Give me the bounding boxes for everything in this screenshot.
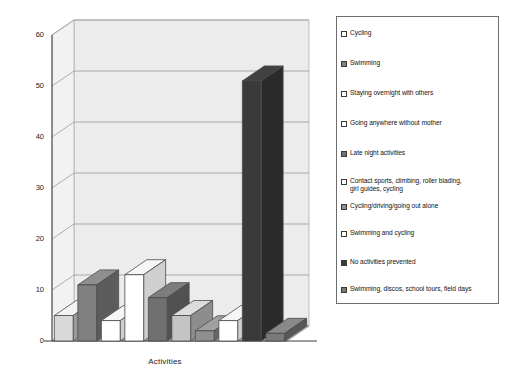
legend-item-3[interactable]: Staying overnight with others (341, 89, 498, 97)
bar-front-face (101, 321, 120, 341)
legend-item-2[interactable]: Swimming (341, 59, 498, 67)
legend-item-label: Cycling/driving/going out alone (350, 202, 438, 210)
legend-item-9[interactable]: No activities prevented (341, 258, 498, 266)
y-tick-label-50: 50 (22, 82, 44, 90)
bar-front-face (242, 81, 261, 341)
plot-area (0, 0, 340, 382)
legend-swatch-icon (341, 231, 347, 237)
bar-front-face (195, 331, 214, 341)
legend-item-label: No activities prevented (350, 258, 416, 266)
bar-side-face (261, 66, 283, 341)
legend-item-label: Swimming (350, 59, 380, 67)
bar-front-face (172, 316, 191, 342)
legend-item-10[interactable]: Swimming, discos, school tours, field da… (341, 285, 498, 293)
bar-front-face (219, 321, 238, 341)
legend-item-7[interactable]: Cycling/driving/going out alone (341, 202, 498, 210)
bar-9 (242, 66, 283, 341)
legend-item-5[interactable]: Late night activities (341, 149, 498, 157)
bar-front-face (78, 285, 97, 341)
bar-front-face (148, 298, 167, 341)
y-tick-label-30: 30 (22, 184, 44, 192)
y-tick-label-40: 40 (22, 133, 44, 141)
bar-front-face (125, 275, 144, 341)
legend-item-label: Swimming and cycling (350, 229, 414, 237)
y-tick-label-0: 0 (22, 337, 44, 345)
legend-swatch-icon (341, 61, 347, 67)
legend-item-6[interactable]: Contact sports, climbing, roller blading… (341, 177, 498, 192)
legend-item-label: Late night activities (350, 149, 405, 157)
legend-swatch-icon (341, 31, 347, 37)
x-axis-title: Activities (0, 357, 330, 366)
plot-canvas (0, 0, 340, 382)
legend-swatch-icon (341, 287, 347, 293)
bar-chart: 0102030405060 Activities CyclingSwimming… (0, 0, 505, 382)
legend: CyclingSwimmingStaying overnight with ot… (336, 16, 499, 304)
legend-item-label: Going anywhere without mother (350, 119, 442, 127)
y-tick-label-20: 20 (22, 235, 44, 243)
y-tick-label-60: 60 (22, 31, 44, 39)
y-tick-label-10: 10 (22, 286, 44, 294)
legend-swatch-icon (341, 121, 347, 127)
legend-item-label: Contact sports, climbing, roller blading… (350, 177, 462, 192)
legend-item-4[interactable]: Going anywhere without mother (341, 119, 498, 127)
legend-item-label: Swimming, discos, school tours, field da… (350, 285, 471, 293)
bar-front-face (54, 316, 73, 342)
legend-item-label: Staying overnight with others (350, 89, 433, 97)
legend-item-label: Cycling (350, 29, 371, 37)
legend-item-1[interactable]: Cycling (341, 29, 498, 37)
legend-swatch-icon (341, 91, 347, 97)
legend-swatch-icon (341, 260, 347, 266)
legend-item-8[interactable]: Swimming and cycling (341, 229, 498, 237)
legend-swatch-icon (341, 151, 347, 157)
legend-swatch-icon (341, 204, 347, 210)
bar-front-face (266, 333, 285, 341)
legend-swatch-icon (341, 179, 347, 185)
